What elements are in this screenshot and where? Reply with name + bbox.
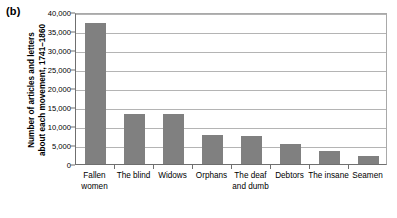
- x-axis-tick-mark: [231, 165, 232, 169]
- y-axis-tick-label: 15,000: [27, 104, 71, 113]
- x-axis-category-label: Seamen: [342, 171, 393, 182]
- bar: [85, 23, 106, 164]
- x-axis-tick-marks: [75, 165, 387, 170]
- plot-area: [75, 13, 387, 165]
- bar: [358, 156, 379, 164]
- y-axis-tick-label: 25,000: [27, 66, 71, 75]
- y-axis-tick-label: 40,000: [27, 9, 71, 18]
- y-axis-tick-label: 0: [27, 161, 71, 170]
- gridline: [76, 90, 386, 91]
- bar: [241, 136, 262, 164]
- bar: [319, 151, 340, 164]
- gridline: [76, 14, 386, 15]
- gridline: [76, 52, 386, 53]
- x-axis-category-label-line-1: Seamen: [342, 171, 393, 182]
- bar: [163, 114, 184, 164]
- gridline: [76, 128, 386, 129]
- y-axis-tick-label: 30,000: [27, 47, 71, 56]
- x-axis-tick-mark: [309, 165, 310, 169]
- x-axis-tick-mark: [153, 165, 154, 169]
- x-axis-category-labels: FallenwomenThe blindWidowsOrphansThe dea…: [75, 171, 387, 213]
- y-axis-tick-label: 10,000: [27, 123, 71, 132]
- bar: [124, 114, 145, 164]
- panel-letter-label: (b): [6, 5, 21, 17]
- bar: [280, 144, 301, 164]
- bar: [202, 135, 223, 164]
- y-axis-tick-label: 35,000: [27, 28, 71, 37]
- y-axis-tick-labels: 05,00010,00015,00020,00025,00030,00035,0…: [25, 13, 71, 165]
- y-axis-tick-label: 20,000: [27, 85, 71, 94]
- gridline: [76, 147, 386, 148]
- figure-panel-b: (b) Number of articles and letters about…: [0, 0, 397, 218]
- x-axis-category-label-line-2: and dumb: [225, 182, 276, 193]
- x-axis-category-label-line-2: women: [69, 182, 120, 193]
- y-axis-tick-label: 5,000: [27, 142, 71, 151]
- x-axis-tick-mark: [114, 165, 115, 169]
- gridline: [76, 109, 386, 110]
- gridline: [76, 71, 386, 72]
- gridline: [76, 33, 386, 34]
- x-axis-tick-mark: [348, 165, 349, 169]
- x-axis-tick-mark: [270, 165, 271, 169]
- x-axis-tick-mark: [192, 165, 193, 169]
